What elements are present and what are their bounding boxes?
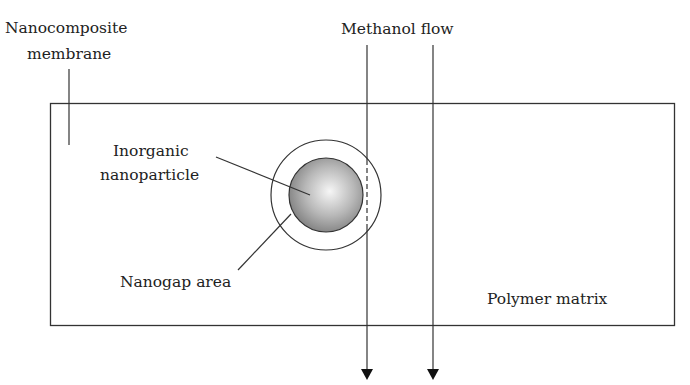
- membrane-label-line2: membrane: [27, 45, 111, 63]
- particle-label-line2: nanoparticle: [100, 166, 199, 184]
- nanocomposite-membrane-diagram: Nanocomposite membrane Methanol flow Ino…: [0, 0, 690, 385]
- nanogap-label: Nanogap area: [120, 273, 231, 291]
- matrix-label: Polymer matrix: [487, 290, 608, 308]
- nanogap-leader-line: [238, 214, 291, 270]
- particle-label-line1: Inorganic: [113, 142, 189, 160]
- flow-label: Methanol flow: [341, 20, 454, 38]
- arrow-down-icon: [361, 369, 373, 380]
- nanoparticle-sphere: [289, 158, 363, 232]
- membrane-label-line1: Nanocomposite: [5, 19, 127, 37]
- arrow-down-icon: [427, 369, 439, 380]
